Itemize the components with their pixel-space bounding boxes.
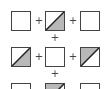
plus-operator: + [68, 52, 78, 62]
blank-square-tile [11, 11, 31, 31]
plus-operator: + [34, 52, 44, 62]
plus-operator: + [50, 33, 60, 43]
plus-operator: + [50, 69, 60, 79]
half-shaded-square-tile [11, 47, 31, 67]
plus-operator: + [68, 16, 78, 26]
blank-square-tile [11, 83, 31, 89]
plus-operator: + [34, 88, 44, 89]
blank-square-tile [80, 83, 100, 89]
blank-square-tile [45, 47, 65, 67]
half-shaded-square-tile [45, 83, 65, 89]
blank-square-tile [80, 11, 100, 31]
half-shaded-square-tile [80, 47, 100, 67]
half-shaded-square-tile [45, 11, 65, 31]
plus-operator: + [34, 16, 44, 26]
plus-operator: + [68, 88, 78, 89]
